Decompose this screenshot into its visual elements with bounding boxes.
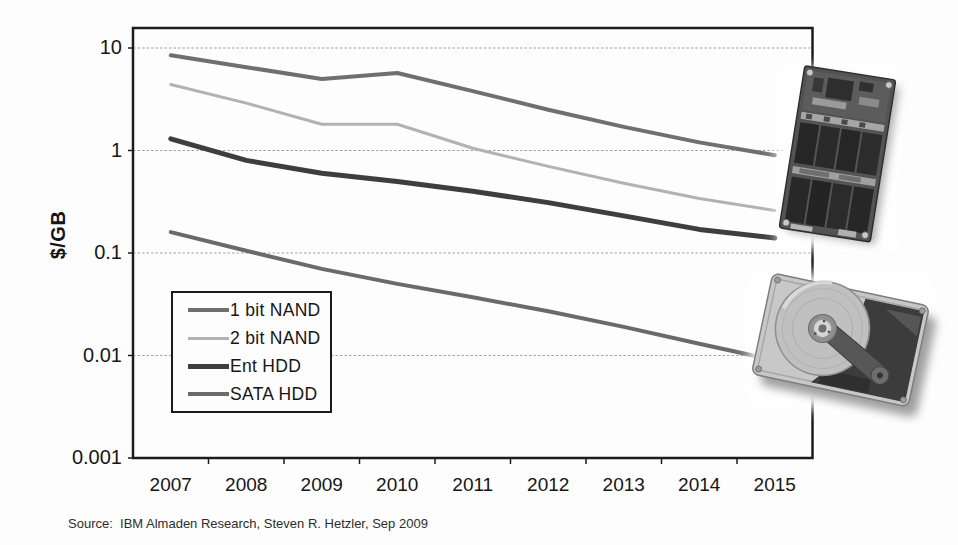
y-tick-label: 1	[30, 139, 122, 162]
legend-label: Ent HDD	[230, 356, 301, 377]
chart-legend: 1 bit NAND2 bit NANDEnt HDDSATA HDD	[171, 291, 332, 413]
legend-label: SATA HDD	[230, 384, 317, 405]
legend-label: 1 bit NAND	[230, 300, 321, 321]
legend-item-sata-hdd: SATA HDD	[188, 380, 330, 408]
x-tick-label: 2009	[282, 474, 362, 496]
source-note: Source: IBM Almaden Research, Steven R. …	[68, 516, 428, 531]
x-tick-label: 2015	[735, 474, 815, 496]
x-tick-label: 2014	[659, 474, 739, 496]
legend-line-swatch	[188, 337, 229, 340]
y-tick-label: 0.1	[30, 241, 122, 264]
y-tick-label: 10	[30, 36, 122, 59]
legend-item-1-bit-nand: 1 bit NAND	[188, 296, 330, 324]
series-line-ent-hdd	[171, 139, 775, 238]
x-tick-label: 2012	[508, 474, 588, 496]
x-tick-label: 2008	[206, 474, 286, 496]
legend-item-ent-hdd: Ent HDD	[188, 352, 330, 380]
series-line-1-bit-nand	[171, 55, 775, 155]
ssd-flash-module-photo	[758, 52, 918, 262]
legend-label: 2 bit NAND	[230, 328, 321, 349]
y-tick-label: 0.001	[30, 446, 122, 469]
legend-item-2-bit-nand: 2 bit NAND	[188, 324, 330, 352]
legend-line-swatch	[188, 308, 229, 312]
legend-line-swatch	[188, 392, 229, 396]
open-hard-disk-drive-photo	[728, 260, 953, 430]
slide-chart-page: $/GB 1010.10.010.00120072008200920102011…	[0, 0, 958, 545]
y-tick-label: 0.01	[30, 344, 122, 367]
x-tick-label: 2010	[357, 474, 437, 496]
x-tick-label: 2013	[584, 474, 664, 496]
x-tick-label: 2011	[433, 474, 513, 496]
x-tick-label: 2007	[131, 474, 211, 496]
legend-line-swatch	[188, 364, 229, 369]
